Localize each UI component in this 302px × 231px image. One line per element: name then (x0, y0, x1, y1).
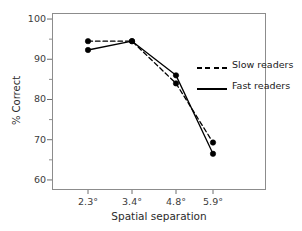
x-tick-label: 5.9° (203, 196, 223, 207)
x-tick-label: 3.4° (122, 196, 142, 207)
legend-swatch-solid (197, 88, 227, 90)
legend-swatch-dashed (197, 67, 227, 69)
y-axis-title: % Correct (11, 59, 22, 143)
legend-item-fast-readers: Fast readers (197, 79, 297, 100)
y-tick-label: 90 (20, 54, 46, 64)
legend-item-slow-readers: Slow readers (197, 58, 297, 79)
x-tick-label: 2.3° (78, 196, 98, 207)
y-tick-label: 60 (20, 175, 46, 185)
x-axis-title: Spatial separation (52, 210, 266, 222)
y-tick-label: 80 (20, 94, 46, 104)
chart-legend: Slow readers Fast readers (197, 58, 297, 100)
tick-marks (47, 19, 213, 194)
x-tick-label: 4.8° (166, 196, 186, 207)
series-lines (88, 41, 213, 154)
y-tick-label: 70 (20, 135, 46, 145)
y-tick-label: 100 (20, 14, 46, 24)
legend-label-fast-readers: Fast readers (232, 80, 290, 91)
x-axis-tick-labels: 2.3°3.4°4.8°5.9° (0, 196, 302, 210)
legend-label-slow-readers: Slow readers (232, 59, 293, 70)
chart-figure: 10090807060 2.3°3.4°4.8°5.9° % Correct S… (0, 0, 302, 231)
